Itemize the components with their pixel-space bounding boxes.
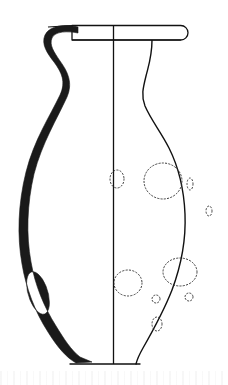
- figure-canvas: Ceramic vessel profile drawing: [0, 0, 228, 385]
- vessel-profile-drawing: [0, 0, 228, 385]
- flat-disc-rim-outline: [72, 26, 188, 41]
